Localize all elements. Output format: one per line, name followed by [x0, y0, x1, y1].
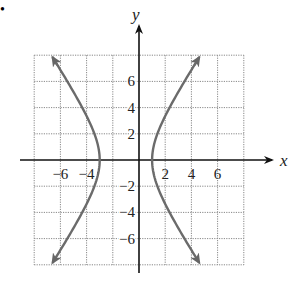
bullet-marker: • [0, 2, 5, 17]
hyperbola-graph: −6−4246642−2−4−6 x y • [0, 0, 298, 283]
axes [20, 26, 272, 273]
y-tick-label: −4 [119, 204, 135, 220]
y-tick-label: 6 [128, 73, 136, 89]
x-tick-label: −4 [79, 166, 95, 182]
y-tick-label: 4 [128, 100, 136, 116]
x-axis-label: x [279, 151, 288, 170]
x-tick-label: 6 [214, 166, 222, 182]
y-tick-label: −6 [119, 231, 135, 247]
x-tick-label: 2 [161, 166, 169, 182]
y-tick-label: 2 [128, 126, 136, 142]
x-tick-label: 4 [188, 166, 196, 182]
y-tick-label: −2 [119, 178, 135, 194]
x-tick-label: −6 [52, 166, 68, 182]
y-axis-label: y [130, 5, 140, 24]
